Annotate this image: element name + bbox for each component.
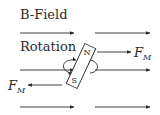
force-label-left: FM: [7, 78, 26, 95]
north-pole-label: N: [83, 48, 90, 57]
south-pole-label: S: [71, 76, 76, 85]
b-field-label: B-Field: [20, 7, 68, 22]
force-label-right: FM: [133, 45, 152, 62]
rotation-label: Rotation: [20, 39, 77, 54]
magnet-rotation-diagram: B-Field Rotation FM N S FM: [0, 0, 160, 115]
